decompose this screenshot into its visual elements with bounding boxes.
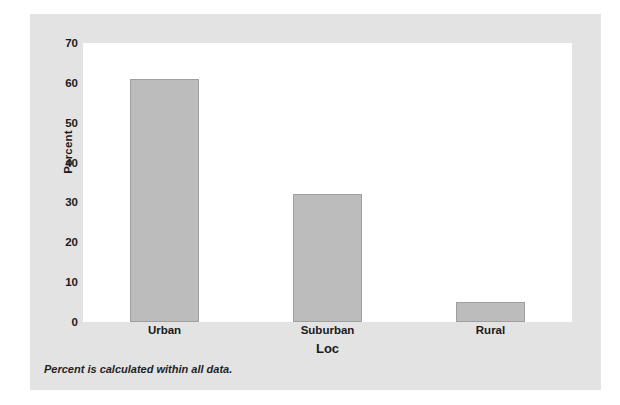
y-axis-tick-label: 10 <box>32 276 78 288</box>
y-axis-tick-label: 70 <box>32 37 78 49</box>
y-axis-tick-label: 20 <box>32 236 78 248</box>
bar[interactable] <box>130 79 199 322</box>
chart-footnote: Percent is calculated within all data. <box>44 363 232 375</box>
bar[interactable] <box>293 194 362 322</box>
x-axis-tick-label: Rural <box>476 324 505 336</box>
chart-panel: Percent 010203040506070 UrbanSuburbanRur… <box>30 14 601 390</box>
x-axis-tick-labels: UrbanSuburbanRural <box>83 324 572 342</box>
y-axis-tick-label: 60 <box>32 77 78 89</box>
y-axis-tick-label: 50 <box>32 117 78 129</box>
y-axis-tick-labels: 010203040506070 <box>30 43 78 322</box>
bar[interactable] <box>456 302 525 322</box>
y-axis-tick-label: 30 <box>32 196 78 208</box>
x-axis-tick-label: Suburban <box>301 324 355 336</box>
y-axis-tick-label: 40 <box>32 157 78 169</box>
x-axis-tick-label: Urban <box>148 324 181 336</box>
y-axis-tick-label: 0 <box>32 316 78 328</box>
x-axis-title: Loc <box>83 341 572 356</box>
plot-area <box>83 43 572 322</box>
